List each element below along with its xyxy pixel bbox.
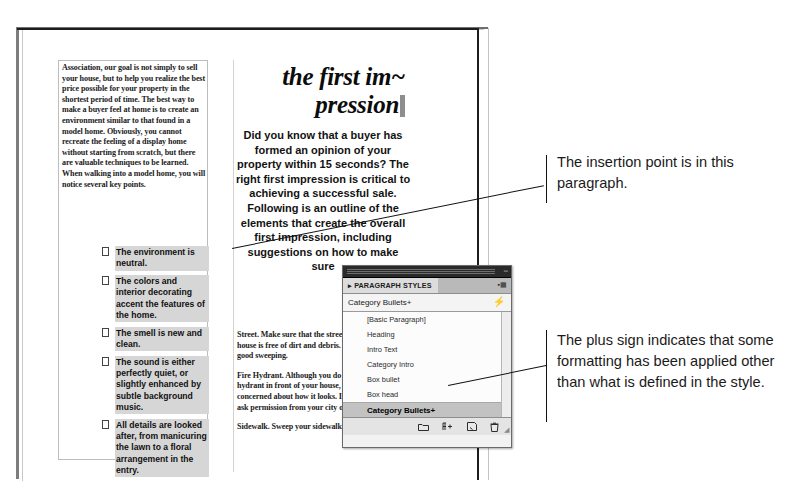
list-item[interactable]: The colors and interior decorating accen… bbox=[102, 276, 208, 321]
bullet-glyph-icon bbox=[102, 247, 116, 260]
style-list[interactable]: [Basic Paragraph] Heading Intro Text Cat… bbox=[343, 312, 511, 418]
page-headline[interactable]: the first im~ pression bbox=[243, 63, 405, 119]
bullet-glyph-icon bbox=[102, 276, 116, 289]
panel-drag-grip-icon[interactable] bbox=[347, 269, 495, 274]
panel-titlebar[interactable]: ▫▫ bbox=[343, 266, 511, 278]
panel-menu-icon[interactable]: ▪▦ bbox=[498, 281, 507, 289]
intro-paragraph[interactable]: Did you know that a buyer has formed an … bbox=[235, 128, 411, 274]
bullet-text: The sound is either perfectly quiet, or … bbox=[116, 357, 208, 413]
list-item[interactable]: The sound is either perfectly quiet, or … bbox=[102, 357, 208, 413]
paragraph-styles-panel[interactable]: ▫▫ ▸ PARAGRAPH STYLES ▪▦ Category Bullet… bbox=[342, 265, 512, 448]
style-list-item[interactable]: Intro Text bbox=[343, 342, 511, 357]
style-list-item[interactable]: Box bullet bbox=[343, 372, 511, 387]
new-style-group-icon[interactable] bbox=[418, 422, 429, 431]
bullet-text: The environment is neutral. bbox=[116, 247, 208, 270]
bullet-list[interactable]: The environment is neutral. The colors a… bbox=[102, 247, 208, 483]
current-style-label: Category Bullets+ bbox=[343, 298, 411, 307]
resize-grip-icon[interactable]: ◢ bbox=[504, 426, 509, 434]
list-item[interactable]: The smell is new and clean. bbox=[102, 328, 208, 351]
panel-tab-row[interactable]: ▸ PARAGRAPH STYLES ▪▦ bbox=[343, 278, 511, 294]
lightning-bolt-icon[interactable]: ⚡ bbox=[493, 296, 505, 307]
annotation-plus-sign: The plus sign indicates that some format… bbox=[557, 330, 801, 393]
left-column-paragraph: Association, our goal is not simply to s… bbox=[60, 63, 208, 190]
current-style-row[interactable]: Category Bullets+ ⚡ bbox=[343, 294, 511, 312]
list-item[interactable]: All details are looked after, from manic… bbox=[102, 420, 208, 476]
style-list-item[interactable]: [Basic Paragraph] bbox=[343, 312, 511, 327]
list-item[interactable]: The environment is neutral. bbox=[102, 247, 208, 270]
panel-footer[interactable]: ◢ bbox=[343, 418, 511, 435]
bullet-text: The colors and interior decorating accen… bbox=[116, 276, 208, 321]
chevron-right-icon: ▸ bbox=[348, 281, 352, 290]
delete-style-icon[interactable] bbox=[490, 422, 499, 432]
bullet-glyph-icon bbox=[102, 420, 116, 433]
new-style-icon[interactable] bbox=[467, 422, 477, 431]
style-list-scrollbar[interactable] bbox=[501, 312, 511, 417]
panel-close-icon[interactable]: ▫▫ bbox=[504, 268, 508, 274]
annotation-insertion-point: The insertion point is in this paragraph… bbox=[557, 152, 797, 194]
bullet-text: The smell is new and clean. bbox=[116, 328, 208, 351]
headline-text: the first im~ pression bbox=[282, 63, 405, 118]
style-list-item[interactable]: Box head bbox=[343, 387, 511, 402]
page-border-top bbox=[17, 28, 478, 30]
bullet-text: All details are looked after, from manic… bbox=[116, 420, 208, 476]
leader-tick-2 bbox=[546, 330, 547, 422]
bullet-glyph-icon bbox=[102, 357, 116, 370]
style-list-item[interactable]: Category Intro bbox=[343, 357, 511, 372]
screenshot-root: Association, our goal is not simply to s… bbox=[0, 0, 801, 489]
style-list-item-selected[interactable]: Category Bullets+ bbox=[343, 402, 511, 418]
leader-tick-1 bbox=[546, 155, 547, 203]
panel-title: PARAGRAPH STYLES bbox=[354, 281, 431, 290]
tab-paragraph-styles[interactable]: ▸ PARAGRAPH STYLES bbox=[343, 278, 438, 293]
style-list-item[interactable]: Heading bbox=[343, 327, 511, 342]
left-column-body[interactable]: Association, our goal is not simply to s… bbox=[60, 63, 208, 190]
bullet-glyph-icon bbox=[102, 328, 116, 341]
text-cursor-icon bbox=[400, 95, 405, 117]
clear-overrides-icon[interactable] bbox=[442, 422, 454, 431]
